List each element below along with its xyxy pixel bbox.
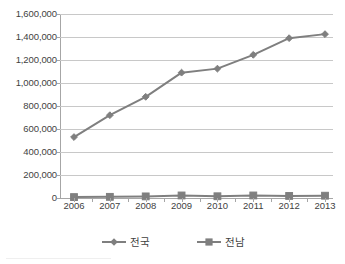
y-axis-tick-marks xyxy=(0,14,61,198)
legend-item-2[interactable]: 전남 xyxy=(196,236,245,248)
legend-square-marker-icon xyxy=(196,236,222,248)
series-1 xyxy=(71,31,329,141)
x-axis-tick-label: 2012 xyxy=(279,201,300,211)
legend-label: 전남 xyxy=(225,237,245,248)
x-axis-tick-labels: 20062007200820092010201120122013 xyxy=(60,201,333,217)
line-chart: 0200,000400,000600,000800,0001,000,0001,… xyxy=(0,0,345,264)
bottom-rule xyxy=(6,258,111,259)
plot-area xyxy=(60,14,333,198)
data-point-marker xyxy=(250,51,257,58)
legend-label: 전국 xyxy=(130,237,150,248)
x-axis-tick-label: 2007 xyxy=(99,201,120,211)
legend-item-1[interactable]: 전국 xyxy=(101,236,150,248)
x-axis-tick-label: 2008 xyxy=(135,201,156,211)
series-layer xyxy=(60,14,333,198)
x-axis-tick-label: 2010 xyxy=(207,201,228,211)
x-axis-tick-label: 2009 xyxy=(171,201,192,211)
chart-legend: 전국전남 xyxy=(0,231,345,253)
series-line xyxy=(74,34,325,137)
data-point-marker xyxy=(286,35,293,42)
data-point-marker xyxy=(214,65,221,72)
x-axis-tick-label: 2006 xyxy=(63,201,84,211)
x-axis-tick-label: 2013 xyxy=(314,201,335,211)
legend-diamond-marker-icon xyxy=(101,236,127,248)
x-axis-tick-label: 2011 xyxy=(243,201,263,211)
data-point-marker xyxy=(322,31,329,38)
